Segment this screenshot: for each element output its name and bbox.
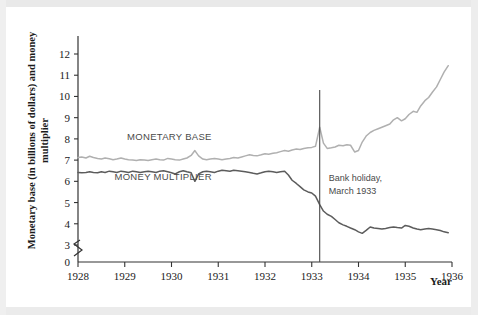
chart-series-lines [78,66,448,234]
y-axis-origin-label: 0 [65,256,71,268]
y-axis-tick-label: 7 [65,154,71,166]
chart-figure: Monetary base (in billions of dollars) a… [0,0,478,315]
y-axis-tick-label: 9 [65,112,71,124]
y-axis-ticks: 3456789101112 [59,48,78,251]
y-axis-tick-label: 10 [59,90,71,102]
x-axis-ticks: 192819291930193119321933193419351936 [67,262,464,282]
y-axis-tick-label: 6 [65,175,71,187]
x-axis-tick-label: 1928 [67,270,90,282]
y-axis-tick-label: 3 [65,239,71,251]
series-label-money-multiplier: MONEY MULTIPLIER [114,171,211,182]
y-axis-tick-label: 11 [59,69,70,81]
x-axis-tick-label: 1930 [161,270,184,282]
x-axis-tick-label: 1935 [394,270,417,282]
chart-plot-area: 3456789101112 19281929193019311932193319… [0,0,478,315]
bank-holiday-annotation-line2: March 1933 [329,186,377,196]
bank-holiday-annotation-line1: Bank holiday, [329,173,382,183]
x-axis-tick-label: 1934 [348,270,371,282]
y-axis-tick-label: 5 [65,197,71,209]
y-axis-tick-label: 12 [59,48,70,60]
x-axis-tick-label: 1929 [114,270,137,282]
series-label-monetary-base: MONETARY BASE [127,131,212,142]
x-axis-tick-label: 1932 [254,270,276,282]
x-axis-tick-label: 1931 [207,270,229,282]
y-axis-tick-label: 4 [65,218,71,230]
y-axis-tick-label: 8 [65,133,71,145]
x-axis-title: Year [430,275,452,287]
series-line-monetary-base [78,66,448,161]
x-axis-tick-label: 1933 [301,270,324,282]
